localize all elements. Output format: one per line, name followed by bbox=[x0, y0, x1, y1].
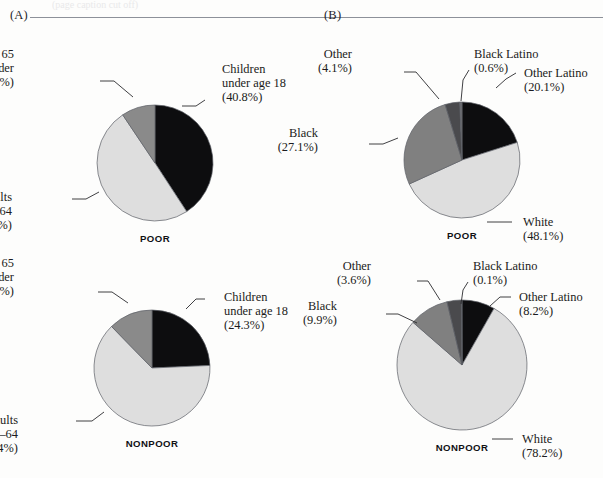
slice-label-name: Other bbox=[337, 259, 371, 273]
pie-chart-b-nonpoor bbox=[0, 0, 603, 478]
slice-label-other: Other(3.6%) bbox=[337, 259, 371, 287]
slice-label-name: White bbox=[522, 432, 562, 446]
slice-label-white: White(78.2%) bbox=[522, 432, 562, 460]
slice-label-percent: (3.6%) bbox=[337, 273, 371, 287]
leader-line-black bbox=[386, 314, 417, 323]
slice-label-black: Black(9.9%) bbox=[303, 299, 337, 327]
slice-label-black-latino: Black Latino(0.1%) bbox=[473, 259, 537, 287]
figure-canvas: (page caption cut off) (A)Childrenunder … bbox=[0, 0, 603, 478]
slice-label-percent: (9.9%) bbox=[303, 313, 337, 327]
leader-line-other-latino bbox=[490, 297, 511, 306]
leader-line-other bbox=[417, 281, 440, 300]
slice-label-name: Black bbox=[303, 299, 337, 313]
slice-label-name: Black Latino bbox=[473, 259, 537, 273]
slice-label-percent: (78.2%) bbox=[522, 446, 562, 460]
group-name-nonpoor: NONPOOR bbox=[422, 442, 502, 453]
slice-label-percent: (8.2%) bbox=[519, 304, 583, 318]
slice-label-name: Other Latino bbox=[519, 290, 583, 304]
slice-label-percent: (0.1%) bbox=[473, 273, 537, 287]
slice-label-other-latino: Other Latino(8.2%) bbox=[519, 290, 583, 318]
